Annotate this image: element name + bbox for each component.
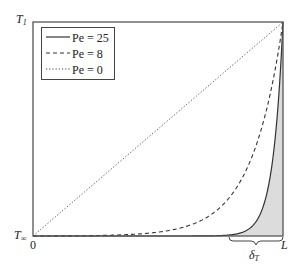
x-origin-label: 0 (30, 239, 36, 251)
dashed-line-sample-icon (46, 49, 70, 57)
legend-item-pe-8: Pe = 8 (42, 46, 114, 60)
legend-item-pe-25: Pe = 25 (42, 30, 114, 44)
legend-item-pe-0: Pe = 0 (42, 62, 114, 76)
legend: Pe = 25 Pe = 8 Pe = 0 (41, 27, 115, 80)
y-bottom-label: T∞ (14, 229, 26, 243)
x-end-label: L (281, 239, 288, 251)
solid-line-sample-icon (46, 33, 70, 41)
delta-t-label: δT (249, 249, 259, 263)
delta-brace (229, 237, 283, 245)
y-top-label: T1 (16, 13, 27, 27)
dotted-line-sample-icon (46, 65, 70, 73)
